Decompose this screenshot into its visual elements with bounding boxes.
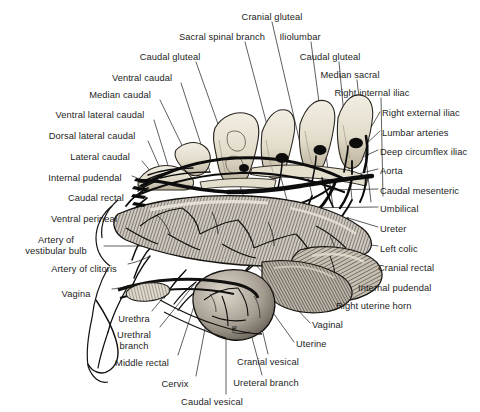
- label-lumbar-arteries: Lumbar arteries: [382, 128, 449, 139]
- label-right-internal-iliac: Right internal iliac: [334, 88, 409, 99]
- label-vagina: Vagina: [62, 289, 91, 300]
- label-caudal-gluteal-left: Caudal gluteal: [140, 52, 201, 63]
- label-caudal-mesenteric: Caudal mesenteric: [380, 186, 459, 197]
- label-cranial-rectal: Cranial rectal: [378, 263, 434, 274]
- label-caudal-vesical: Caudal vesical: [181, 397, 243, 408]
- label-median-caudal: Median caudal: [89, 90, 151, 101]
- label-right-external-iliac: Right external iliac: [382, 108, 460, 119]
- label-left-colic: Left colic: [380, 244, 418, 255]
- label-ureteral-branch: Ureteral branch: [233, 378, 298, 389]
- label-vaginal: Vaginal: [312, 320, 343, 331]
- label-urethral-branch: Urethral branch: [117, 330, 151, 352]
- label-internal-pudendal-right: Internal pudendal: [358, 283, 431, 294]
- label-caudal-gluteal-right: Caudal gluteal: [300, 52, 361, 63]
- label-ventral-perineal: Ventral perineal: [51, 214, 117, 225]
- label-cervix: Cervix: [162, 379, 189, 390]
- label-right-uterine-horn: Right uterine horn: [336, 301, 412, 312]
- label-ureter: Ureter: [380, 224, 406, 235]
- label-lateral-caudal: Lateral caudal: [70, 152, 130, 163]
- label-ventral-caudal: Ventral caudal: [112, 73, 172, 84]
- label-artery-of-vestibular-bulb: Artery of vestibular bulb: [25, 235, 86, 257]
- label-uterine: Uterine: [296, 339, 327, 350]
- label-umbilical: Umbilical: [380, 204, 419, 215]
- label-artery-of-clitoris: Artery of clitoris: [51, 264, 117, 275]
- label-middle-rectal: Middle rectal: [115, 358, 169, 369]
- label-iliolumbar: Iliolumbar: [279, 32, 320, 43]
- label-cranial-gluteal: Cranial gluteal: [242, 12, 303, 23]
- label-aorta: Aorta: [380, 166, 403, 177]
- label-caudal-rectal: Caudal rectal: [68, 193, 124, 204]
- label-deep-circumflex-iliac: Deep circumflex iliac: [380, 147, 467, 158]
- label-internal-pudendal-left: Internal pudendal: [48, 173, 121, 184]
- label-median-sacral: Median sacral: [320, 70, 379, 81]
- label-urethra: Urethra: [118, 314, 150, 325]
- label-ventral-lateral-caudal: Ventral lateral caudal: [56, 110, 145, 121]
- label-dorsal-lateral-caudal: Dorsal lateral caudal: [49, 131, 136, 142]
- label-sacral-spinal-branch: Sacral spinal branch: [179, 32, 265, 43]
- label-cranial-vesical: Cranial vesical: [237, 357, 299, 368]
